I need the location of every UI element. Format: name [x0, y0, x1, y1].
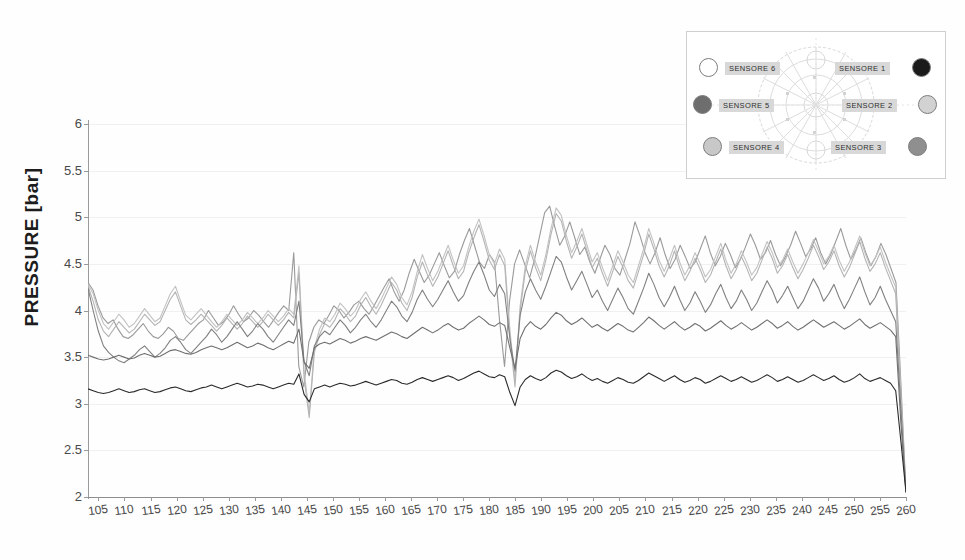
x-tick-mark	[98, 497, 99, 501]
x-tick-label: 105	[88, 502, 110, 519]
x-tick-mark	[307, 497, 308, 501]
x-tick-mark	[672, 497, 673, 501]
y-tick-label: 6	[48, 116, 82, 131]
x-tick-label: 140	[270, 502, 292, 519]
sensor-swatch-4	[703, 137, 722, 156]
sensor-swatch-2	[918, 95, 937, 114]
x-tick-mark	[906, 497, 907, 501]
y-tick-label: 4	[48, 303, 82, 318]
x-tick-mark	[880, 497, 881, 501]
y-axis-title: PRESSURE [bar]	[21, 137, 43, 357]
x-tick-label: 110	[114, 502, 135, 519]
x-tick-mark	[385, 497, 386, 501]
x-tick-label: 220	[687, 502, 709, 519]
sensor-swatch-1	[912, 58, 931, 77]
series-line-sensore-1	[88, 206, 906, 492]
x-tick-label: 130	[218, 502, 240, 519]
x-tick-mark	[541, 497, 542, 501]
x-tick-mark	[463, 497, 464, 501]
x-tick-mark	[333, 497, 334, 501]
x-tick-mark	[567, 497, 568, 501]
sensor-swatch-5	[693, 95, 712, 114]
x-tick-mark	[828, 497, 829, 501]
x-tick-mark	[802, 497, 803, 501]
y-tick-label: 5	[48, 209, 82, 224]
x-axis-tick-labels: 1051101151201251301351401451501551601651…	[88, 503, 918, 533]
y-tick-label: 3	[48, 396, 82, 411]
x-tick-mark	[255, 497, 256, 501]
x-tick-mark	[151, 497, 152, 501]
sensor-swatch-6	[699, 58, 718, 77]
x-tick-mark	[593, 497, 594, 501]
x-tick-mark	[177, 497, 178, 501]
x-tick-label: 250	[843, 502, 865, 519]
x-tick-label: 185	[504, 502, 526, 519]
x-tick-label: 165	[400, 502, 422, 519]
x-tick-label: 120	[166, 502, 188, 519]
x-tick-label: 190	[530, 502, 552, 519]
sensor-label-5: SENSORE 5	[719, 99, 774, 112]
x-tick-label: 145	[296, 502, 318, 519]
x-tick-label: 135	[244, 502, 266, 519]
x-tick-label: 235	[765, 502, 787, 519]
sensor-label-1: SENSORE 1	[835, 62, 890, 75]
x-tick-mark	[229, 497, 230, 501]
x-tick-label: 240	[791, 502, 813, 519]
chart-plot-area	[88, 124, 906, 497]
x-tick-label: 260	[895, 502, 917, 519]
sensor-label-2: SENSORE 2	[842, 99, 897, 112]
x-tick-label: 210	[635, 502, 657, 519]
x-tick-label: 215	[661, 502, 683, 519]
x-tick-label: 125	[192, 502, 214, 519]
x-tick-label: 115	[140, 502, 161, 519]
x-tick-mark	[750, 497, 751, 501]
x-tick-label: 150	[322, 502, 344, 519]
x-tick-mark	[854, 497, 855, 501]
x-tick-mark	[411, 497, 412, 501]
series-line-sensore-6	[88, 370, 906, 492]
y-tick-label: 5.5	[48, 163, 82, 178]
x-tick-label: 155	[348, 502, 370, 519]
x-tick-label: 255	[869, 502, 891, 519]
x-tick-mark	[203, 497, 204, 501]
y-tick-label: 4.5	[48, 256, 82, 271]
y-tick-label: 3.5	[48, 349, 82, 364]
series-line-sensore-5	[88, 312, 906, 492]
sensor-label-3: SENSORE 3	[831, 141, 886, 154]
y-axis-tick-labels: 65.554.543.532.52	[42, 124, 82, 497]
x-tick-mark	[645, 497, 646, 501]
series-lines	[88, 124, 906, 497]
x-tick-label: 180	[478, 502, 500, 519]
sensor-label-4: SENSORE 4	[729, 141, 784, 154]
x-tick-label: 160	[374, 502, 396, 519]
x-tick-mark	[698, 497, 699, 501]
x-tick-label: 195	[556, 502, 578, 519]
x-tick-label: 175	[452, 502, 474, 519]
series-line-sensore-4	[88, 256, 906, 492]
y-tick-label: 2	[48, 489, 82, 504]
x-tick-label: 170	[426, 502, 448, 519]
x-tick-label: 230	[739, 502, 761, 519]
x-tick-mark	[437, 497, 438, 501]
sensor-label-6: SENSORE 6	[725, 62, 780, 75]
x-tick-label: 225	[713, 502, 735, 519]
series-line-sensore-2	[88, 208, 906, 492]
x-tick-mark	[619, 497, 620, 501]
x-tick-mark	[124, 497, 125, 501]
pressure-chart-figure: PRESSURE [bar] 65.554.543.532.52 1051101…	[0, 0, 965, 560]
x-tick-mark	[359, 497, 360, 501]
x-tick-mark	[724, 497, 725, 501]
sensor-layout-legend: SENSORE 6 SENSORE 1 SENSORE 5 SENSORE 2 …	[686, 31, 946, 179]
x-tick-mark	[776, 497, 777, 501]
sensor-swatch-3	[908, 137, 927, 156]
x-tick-mark	[281, 497, 282, 501]
x-tick-mark	[489, 497, 490, 501]
x-tick-label: 200	[582, 502, 604, 519]
x-tick-label: 245	[817, 502, 839, 519]
y-tick-label: 2.5	[48, 442, 82, 457]
x-tick-label: 205	[609, 502, 631, 519]
x-tick-mark	[515, 497, 516, 501]
